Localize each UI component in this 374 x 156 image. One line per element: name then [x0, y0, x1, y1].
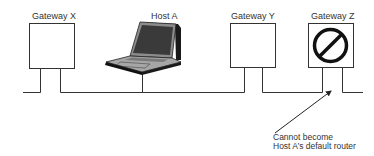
- gateway-y-label: Gateway Y: [231, 11, 275, 21]
- host-a-label: Host A: [151, 11, 178, 21]
- laptop-icon: [105, 22, 181, 75]
- gateway-x-box: [30, 24, 75, 69]
- annotation-arrow: [275, 91, 331, 133]
- gateway-z[interactable]: [309, 24, 354, 93]
- gateway-x[interactable]: [30, 24, 75, 93]
- gateway-x-label: Gateway X: [32, 11, 76, 21]
- gateway-y-box: [231, 24, 276, 68]
- host-a[interactable]: [105, 22, 181, 93]
- gateway-y[interactable]: [231, 24, 276, 93]
- annotation-line-2: Host A’s default router: [273, 142, 356, 151]
- gateway-z-label: Gateway Z: [311, 11, 355, 21]
